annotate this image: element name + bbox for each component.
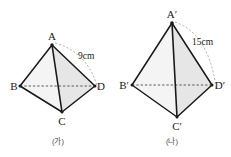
left-tetrahedron: A B C D 9cm (가) (10, 30, 105, 146)
right-vertex-label-d: D′ (215, 79, 225, 91)
right-vertex-dot-d (211, 84, 214, 87)
right-vertex-dot-c (176, 116, 179, 119)
right-tetrahedron: A′ B′ C′ D′ 15cm (나) (119, 8, 225, 146)
left-measure-label: 9cm (78, 51, 95, 61)
figure-canvas: A B C D 9cm (가) (0, 0, 231, 157)
right-face-bac (132, 23, 177, 117)
right-vertex-dot-b (131, 84, 134, 87)
left-vertex-dot-a (50, 43, 53, 46)
left-vertex-label-d: D (97, 80, 105, 92)
geometry-illustration: A B C D 9cm (가) (0, 0, 231, 157)
right-vertex-label-b: B′ (119, 79, 129, 91)
right-vertex-label-a: A′ (167, 8, 177, 20)
right-vertex-label-c: C′ (172, 120, 182, 132)
left-vertex-label-b: B (10, 80, 17, 92)
left-vertex-dot-c (61, 111, 64, 114)
left-vertex-dot-b (19, 85, 22, 88)
left-figure-caption: (가) (52, 137, 64, 146)
left-vertex-label-a: A (48, 30, 56, 42)
right-figure-caption: (나) (166, 137, 178, 146)
right-vertex-dot-a (170, 21, 174, 25)
right-measure-label: 15cm (192, 37, 214, 47)
left-vertex-label-c: C (58, 115, 65, 127)
